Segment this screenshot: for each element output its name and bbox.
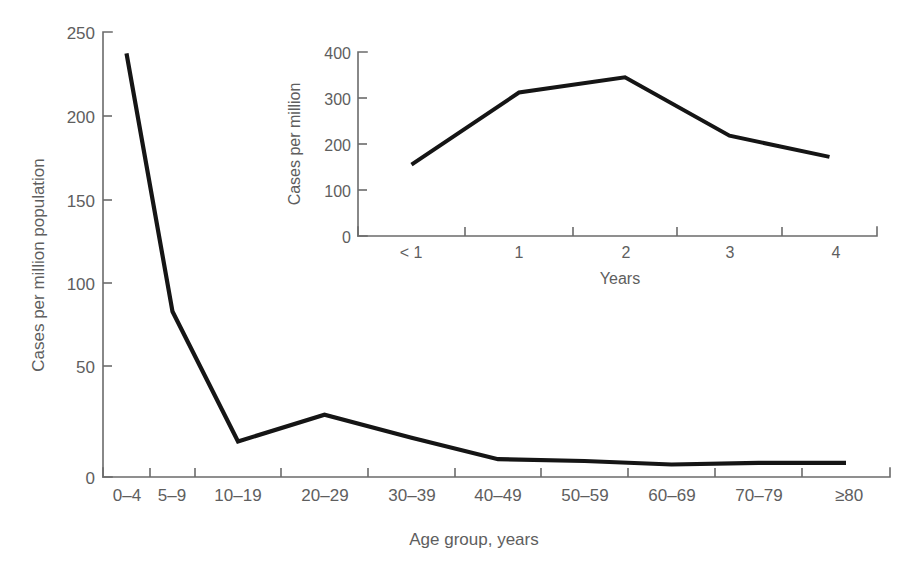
main-x-tick-label-60-69: 60–69 (648, 486, 695, 505)
main-x-tick-label-80-plus: ≥80 (835, 486, 863, 505)
inset-y-axis-title: Cases per million (286, 83, 303, 206)
main-y-axis-title: Cases per million population (29, 158, 48, 372)
inset-x-tick-label-3: 3 (726, 244, 735, 261)
inset-x-tick-label-2: 2 (622, 244, 631, 261)
inset-x-axis-line (358, 227, 877, 236)
inset-data-line (412, 77, 830, 164)
main-x-tick-label-70-79: 70–79 (735, 486, 782, 505)
inset-chart-group: 400 300 200 100 0 < 1 1 2 3 4 Cases per … (286, 45, 877, 287)
main-chart-group: 250 200 150 100 50 0 0–4 5–9 10–19 20–29… (29, 24, 890, 549)
main-x-tick-label-50-59: 50–59 (561, 486, 608, 505)
inset-y-tick-label-300: 300 (324, 91, 351, 108)
main-x-tick-label-40-49: 40–49 (474, 486, 521, 505)
chart-canvas: 250 200 150 100 50 0 0–4 5–9 10–19 20–29… (0, 0, 915, 564)
main-x-tick-label-0-4: 0–4 (113, 486, 141, 505)
inset-y-tick-label-200: 200 (324, 137, 351, 154)
main-y-tick-label-150: 150 (67, 192, 95, 211)
main-y-tick-label-250: 250 (67, 24, 95, 43)
inset-x-tick-label-lt1: < 1 (400, 244, 423, 261)
inset-y-tick-label-400: 400 (324, 45, 351, 62)
inset-y-tick-label-0: 0 (342, 229, 351, 246)
main-x-axis-line (103, 468, 890, 477)
main-y-tick-label-200: 200 (67, 108, 95, 127)
inset-x-tick-label-4: 4 (832, 244, 841, 261)
main-x-tick-label-30-39: 30–39 (388, 486, 435, 505)
main-x-tick-label-10-19: 10–19 (214, 486, 261, 505)
inset-y-tick-label-100: 100 (324, 183, 351, 200)
main-x-tick-label-20-29: 20–29 (301, 486, 348, 505)
inset-x-tick-label-1: 1 (515, 244, 524, 261)
main-y-tick-label-0: 0 (86, 469, 95, 488)
main-y-tick-label-100: 100 (67, 275, 95, 294)
main-y-axis-line (103, 32, 112, 477)
inset-x-axis-title: Years (600, 270, 640, 287)
chart-figure: 250 200 150 100 50 0 0–4 5–9 10–19 20–29… (0, 0, 915, 564)
main-y-tick-label-50: 50 (76, 358, 95, 377)
main-x-tick-label-5-9: 5–9 (158, 486, 186, 505)
main-x-axis-title: Age group, years (409, 530, 538, 549)
